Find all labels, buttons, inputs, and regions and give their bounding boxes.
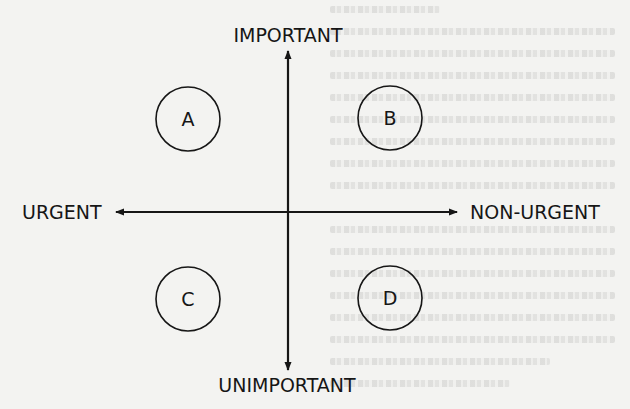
- quadrant-c: C: [156, 267, 220, 331]
- quadrant-b: B: [358, 86, 422, 150]
- axis-label-important: IMPORTANT: [229, 26, 347, 45]
- quadrant-c-label: C: [181, 288, 194, 310]
- quadrant-d: D: [358, 266, 422, 330]
- axis-label-non-urgent: NON-URGENT: [470, 203, 600, 222]
- quadrant-a: A: [156, 87, 220, 151]
- axis-label-unimportant: UNIMPORTANT: [212, 376, 362, 395]
- quadrant-b-label: B: [383, 107, 396, 129]
- axis-label-urgent: URGENT: [22, 203, 102, 222]
- quadrant-d-label: D: [383, 287, 398, 309]
- quadrant-a-label: A: [182, 108, 195, 130]
- scanned-page: A B C D IMPORTANT URGENT NON-URGENT UNIM…: [0, 0, 630, 409]
